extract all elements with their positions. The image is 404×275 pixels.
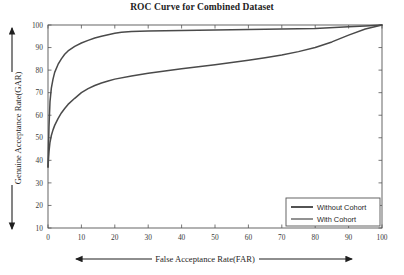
y-tick-label: 30	[36, 179, 44, 188]
legend-label-1[interactable]: Without Cohort	[317, 203, 366, 212]
series-line-1	[48, 25, 382, 167]
y-tick-label: 10	[36, 224, 44, 233]
x-tick-label: 10	[78, 233, 86, 242]
y-tick-label: 40	[36, 156, 44, 165]
legend[interactable]: Without CohortWith Cohort	[286, 198, 380, 226]
roc-chart-figure: ROC Curve for Combined Dataset 010203040…	[0, 0, 404, 275]
series-line-2	[48, 25, 382, 167]
x-tick-label: 70	[278, 233, 286, 242]
x-tick-label: 60	[245, 233, 253, 242]
y-tick-label: 60	[36, 111, 44, 120]
x-axis-title: False Acceptance Rate(FAR)	[155, 254, 255, 264]
y-tick-label: 100	[32, 21, 43, 30]
x-tick-label: 50	[211, 233, 219, 242]
x-tick-label: 20	[111, 233, 119, 242]
data-series-group	[48, 25, 382, 167]
x-tick-label: 0	[46, 233, 50, 242]
y-tick-label: 80	[36, 66, 44, 75]
chart-plot-area: 0102030405060708090100 10203040506070809…	[0, 0, 404, 275]
x-tick-label: 100	[376, 233, 387, 242]
y-tick-label: 70	[36, 88, 44, 97]
y-tick-label: 50	[36, 133, 44, 142]
x-tick-label: 40	[178, 233, 186, 242]
y-tick-label: 90	[36, 43, 44, 52]
y-axis-title: Genuine Acceptance Rate(GAR)	[13, 72, 23, 185]
x-tick-label: 90	[345, 233, 353, 242]
legend-label-2[interactable]: With Cohort	[317, 215, 356, 224]
x-tick-label: 30	[145, 233, 153, 242]
y-tick-label: 20	[36, 201, 44, 210]
x-tick-label: 80	[312, 233, 320, 242]
